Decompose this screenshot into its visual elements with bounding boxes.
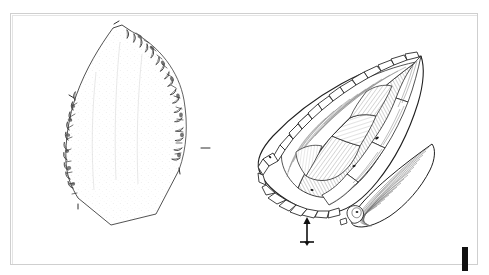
left-artifact-body	[66, 25, 186, 225]
artifact-right-shaded-drawing	[246, 48, 436, 238]
tick-mark-tip	[114, 21, 119, 24]
artifact-left-outline-drawing	[56, 20, 224, 235]
flake-bulb-of-percussion	[347, 206, 364, 224]
scale-bar	[462, 247, 468, 271]
tick-mark-right-lower	[179, 168, 180, 174]
percussion-direction-arrow-icon	[296, 216, 318, 246]
lithic-illustration-plate: Bifacially retouched leaf-shaped point, …	[0, 0, 489, 275]
